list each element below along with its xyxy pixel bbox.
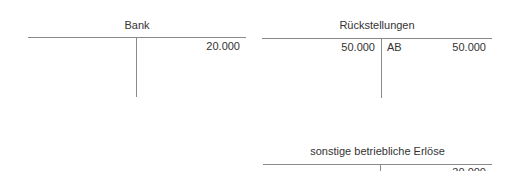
t-account-horizontal-line <box>263 164 492 165</box>
t-account-horizontal-line <box>28 37 246 38</box>
t-account-vertical-line <box>380 164 381 171</box>
credit-amount: 30.000 <box>396 166 486 171</box>
debit-amount: 50.000 <box>285 41 375 53</box>
t-account-vertical-line <box>136 37 137 97</box>
account-title: Bank <box>28 19 246 31</box>
credit-amount: 50.000 <box>396 41 486 53</box>
t-account-horizontal-line <box>262 38 492 39</box>
account-title: sonstige betriebliche Erlöse <box>263 145 492 157</box>
credit-amount: 20.000 <box>150 40 240 52</box>
t-account-vertical-line <box>381 38 382 98</box>
account-title: Rückstellungen <box>262 19 492 31</box>
